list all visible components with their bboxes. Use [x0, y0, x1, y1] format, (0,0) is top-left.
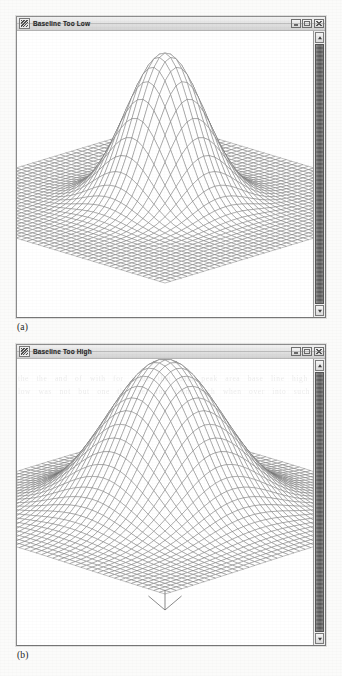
close-button[interactable] — [314, 347, 324, 356]
close-icon — [316, 21, 322, 26]
scroll-up-button[interactable] — [315, 360, 324, 371]
close-button[interactable] — [314, 19, 324, 28]
surface-plot-b[interactable] — [17, 359, 313, 645]
maximize-icon — [304, 21, 310, 26]
surface-plot-a[interactable] — [17, 31, 313, 317]
vertical-scrollbar[interactable] — [313, 31, 325, 317]
figure-caption-b: (b) — [17, 650, 326, 660]
window-title: Baseline Too Low — [33, 20, 90, 27]
app-system-icon[interactable] — [19, 346, 30, 357]
window-client-area — [17, 359, 325, 645]
minimize-button[interactable] — [291, 19, 301, 28]
minimize-icon — [294, 352, 298, 354]
scroll-down-button[interactable] — [315, 633, 324, 644]
vertical-scrollbar[interactable] — [313, 359, 325, 645]
figure-b: Baseline Too High (b) — [16, 344, 326, 660]
figure-a: Baseline Too Low (a) — [16, 16, 326, 332]
scrollbar-thumb[interactable] — [315, 372, 324, 632]
surface-mesh-baseline-too-low — [17, 31, 313, 317]
app-system-icon[interactable] — [19, 18, 30, 29]
figure-caption-a: (a) — [17, 322, 326, 332]
chevron-up-icon — [318, 364, 322, 367]
minimize-icon — [294, 24, 298, 26]
chevron-up-icon — [318, 36, 322, 39]
chevron-down-icon — [318, 309, 322, 312]
window-baseline-too-high[interactable]: Baseline Too High — [16, 344, 326, 646]
close-icon — [316, 349, 322, 354]
scrollbar-track[interactable] — [315, 44, 324, 304]
chevron-down-icon — [318, 637, 322, 640]
scrollbar-track[interactable] — [315, 372, 324, 632]
titlebar[interactable]: Baseline Too High — [17, 345, 325, 359]
scrollbar-thumb[interactable] — [315, 44, 324, 304]
maximize-button[interactable] — [302, 347, 312, 356]
window-title: Baseline Too High — [33, 348, 92, 355]
titlebar[interactable]: Baseline Too Low — [17, 17, 325, 31]
scroll-down-button[interactable] — [315, 305, 324, 316]
scroll-up-button[interactable] — [315, 32, 324, 43]
surface-mesh-baseline-too-high — [17, 359, 313, 645]
window-client-area — [17, 31, 325, 317]
minimize-button[interactable] — [291, 347, 301, 356]
window-controls — [291, 347, 324, 356]
window-controls — [291, 19, 324, 28]
window-baseline-too-low[interactable]: Baseline Too Low — [16, 16, 326, 318]
maximize-icon — [304, 349, 310, 354]
maximize-button[interactable] — [302, 19, 312, 28]
